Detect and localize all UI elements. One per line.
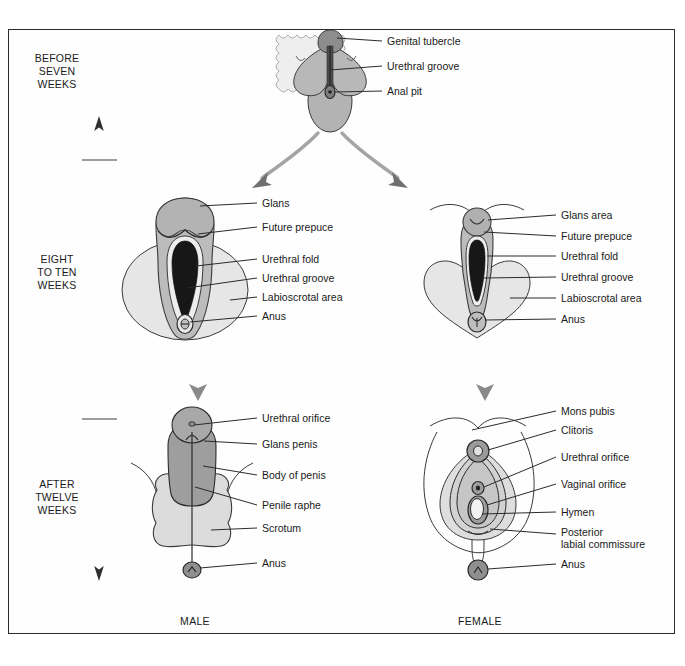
callout-male-mid-urethral-groove: Urethral groove [262,272,334,284]
branch-arrows [252,133,408,188]
callout-female-late-hymen: Hymen [561,506,594,518]
callout-male-late-glans-penis: Glans penis [262,438,317,450]
male-mid-drawing [122,198,257,340]
callout-male-late-anus: Anus [262,557,286,569]
callout-female-mid-labioscrotal-area: Labioscrotal area [561,292,642,304]
callout-female-late-clitoris: Clitoris [561,424,593,436]
hymen-shape [471,499,484,520]
callout-male-mid-anus: Anus [262,310,286,322]
callout-female-mid-future-prepuce: Future prepuce [561,230,632,242]
callout-male-mid-urethral-fold: Urethral fold [262,253,319,265]
callout-female-late-anus: Anus [561,558,585,570]
callout-female-mid-urethral-groove: Urethral groove [561,271,633,283]
figure-page: BEFORE SEVEN WEEKS EIGHT TO TEN WEEKS AF… [0,0,685,666]
column-label-male: MALE [155,615,235,627]
stage-label-after-twelve-weeks: AFTER TWELVE WEEKS [22,478,92,517]
callout-female-late-urethral-orifice: Urethral orifice [561,451,629,463]
male-late-drawing [131,407,257,578]
callout-female-late-mons-pubis: Mons pubis [561,405,615,417]
stage-label-eight-to-ten-weeks: EIGHT TO TEN WEEKS [22,253,92,292]
column-label-female: FEMALE [440,615,520,627]
callout-male-late-penile-raphe: Penile raphe [262,499,321,511]
stage-label-before-seven-weeks: BEFORE SEVEN WEEKS [22,52,92,91]
callout-male-late-scrotum: Scrotum [262,522,301,534]
transition-arrows [189,355,494,401]
callout-genital-tubercle: Genital tubercle [387,35,461,47]
callout-female-mid-anus: Anus [561,313,585,325]
callout-urethral-groove-indifferent: Urethral groove [387,60,459,72]
indifferent-stage-drawing [276,30,382,132]
callout-male-late-body-of-penis: Body of penis [262,469,326,481]
callout-female-late-posterior-labial-commissure: Posterior labial commissure [561,526,645,550]
callout-female-mid-glans-area: Glans area [561,209,612,221]
callout-female-late-vaginal-orifice: Vaginal orifice [561,478,626,490]
callout-female-mid-urethral-fold: Urethral fold [561,250,618,262]
callout-male-mid-glans: Glans [262,197,289,209]
callout-male-late-urethral-orifice: Urethral orifice [262,412,330,424]
callout-anal-pit: Anal pit [387,85,422,97]
callout-male-mid-future-prepuce: Future prepuce [262,221,333,233]
female-mid-drawing [424,204,556,338]
callout-male-mid-labioscrotal-area: Labioscrotal area [262,291,343,303]
female-late-drawing [424,411,556,580]
